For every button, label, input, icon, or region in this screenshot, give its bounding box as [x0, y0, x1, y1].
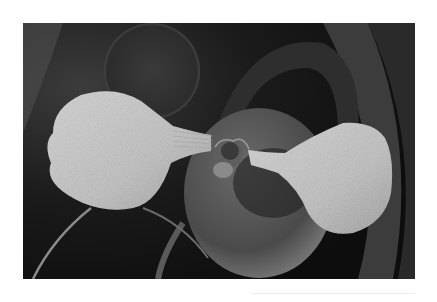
divider-line [252, 293, 415, 294]
shoot-base [213, 162, 233, 178]
shoot-core [221, 142, 239, 160]
micrograph-svg [23, 23, 415, 279]
micrograph-photo: Seedling micrograph [23, 23, 415, 279]
